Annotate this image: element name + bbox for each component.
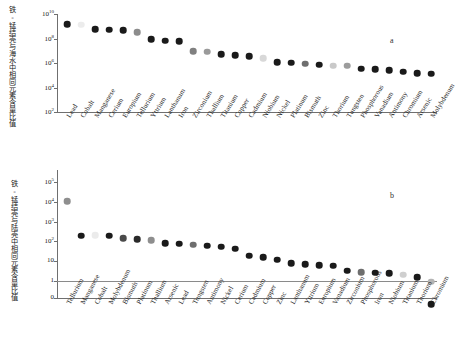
panel-b-point-lanthanum — [288, 260, 295, 267]
panel-b-point-molybdenum — [106, 233, 113, 240]
panel-b: 铁-锰结壳与陆壳中相同元素含量比值 b 0110102103104105 Tel… — [0, 168, 447, 354]
panel-b-ytick-0: 0 — [32, 293, 54, 301]
panel-a-ytick-mark-3 — [54, 39, 57, 40]
panel-b-y-axis — [57, 170, 58, 298]
panel-b-point-tellurium — [64, 198, 71, 205]
panel-a-point-manganese — [92, 26, 99, 33]
panel-b-letter: b — [390, 191, 394, 200]
panel-b-point-bismuth — [120, 235, 127, 242]
panel-a-y-axis — [57, 14, 58, 112]
panel-b-ytick-5: 104 — [32, 197, 54, 206]
panel-a-point-molybdenum — [428, 70, 435, 77]
panel-a-point-iron — [176, 38, 183, 45]
panel-b-xlabel-iron: Iron — [373, 291, 386, 305]
panel-a-point-platinum — [288, 59, 295, 66]
panel-b-ylabel-group: 铁-锰结壳与陆壳中相同元素含量比值 — [10, 180, 19, 301]
panel-b-point-manganese — [78, 232, 85, 239]
panel-a-point-tellurium — [134, 29, 141, 36]
panel-b-point-copper — [260, 254, 267, 261]
panel-b-ytick-mark-3 — [54, 241, 57, 242]
panel-b-ytick-3: 102 — [32, 236, 54, 245]
panel-a-ylabel-group: 铁-锰结壳与海水中相同元素含量比值 — [8, 6, 17, 127]
panel-b-ytick-mark-2 — [54, 261, 57, 262]
panel-a-point-thallium — [204, 49, 211, 56]
panel-b-point-yttrium — [302, 261, 309, 268]
panel-b-point-niobium — [386, 270, 393, 277]
panel-b-point-arsenic — [162, 240, 169, 247]
panel-b-point-cobalt — [92, 232, 99, 239]
panel-b-point-lead — [176, 241, 183, 248]
panel-b-point-zinc — [274, 256, 281, 263]
panel-a-point-antimony — [386, 67, 393, 74]
panel-a-point-lead — [64, 21, 71, 28]
panel-a-point-arsenic — [414, 70, 421, 77]
panel-b-ytick-1: 1 — [32, 276, 54, 284]
panel-b-point-cerium — [232, 246, 239, 253]
panel-b-reference-line-one — [57, 281, 437, 282]
panel-a-ytick-3: 108 — [32, 34, 54, 43]
panel-b-ylabel-chinese: 铁-锰结壳与陆壳中相同元素含量比值 — [10, 180, 19, 301]
panel-b-ytick-mark-6 — [54, 182, 57, 183]
panel-a-xlabel-iron: Iron — [177, 105, 190, 119]
panel-a-point-tungsten — [344, 63, 351, 70]
panel-b-ytick-mark-0 — [54, 298, 57, 299]
panel-a-point-titanium — [218, 51, 225, 58]
panel-a-ytick-2: 106 — [32, 58, 54, 67]
panel-a-ytick-mark-1 — [54, 88, 57, 89]
panel-b-ytick-mark-4 — [54, 222, 57, 223]
panel-a-point-cobalt — [78, 22, 85, 29]
panel-a-ytick-mark-4 — [54, 14, 57, 15]
panel-a-point-cadmium — [246, 53, 253, 60]
panel-b-ytick-4: 103 — [32, 217, 54, 226]
panel-a-point-copper — [232, 52, 239, 59]
panel-b-ytick-2: 10 — [32, 256, 54, 264]
panel-b-ytick-mark-5 — [54, 202, 57, 203]
panel-a-point-zirconium — [190, 48, 197, 55]
panel-a-point-phosphorous — [358, 65, 365, 72]
panel-a-xlabel-cobalt: Cobalt — [79, 99, 96, 120]
panel-a-ytick-4: 1010 — [32, 9, 54, 18]
panel-a-point-zinc — [316, 61, 323, 68]
panel-a-ytick-mark-0 — [54, 112, 57, 113]
panel-a: 铁-锰结壳与海水中相同元素含量比值 a 1021041061081010 Lea… — [0, 0, 447, 168]
panel-a-point-bismuth — [302, 60, 309, 67]
panel-b-point-europium — [316, 262, 323, 269]
panel-a-letter: a — [390, 36, 394, 45]
panel-b-point-thallium — [148, 237, 155, 244]
panel-b-point-antimony — [204, 242, 211, 249]
panel-b-point-vanadium — [330, 262, 337, 269]
panel-a-point-nickel — [274, 59, 281, 66]
panel-a-point-thorium — [330, 62, 337, 69]
panel-a-ytick-0: 102 — [32, 107, 54, 116]
panel-a-point-vanadium — [372, 66, 379, 73]
panel-b-point-zirconium — [344, 267, 351, 274]
panel-b-ytick-6: 105 — [32, 177, 54, 186]
panel-a-point-chromium — [400, 68, 407, 75]
panel-a-point-europium — [120, 27, 127, 34]
panel-a-ylabel-chinese: 铁-锰结壳与海水中相同元素含量比值 — [8, 6, 17, 127]
panel-b-point-cadmium — [246, 252, 253, 259]
panel-a-ytick-mark-2 — [54, 63, 57, 64]
panel-b-point-titanium — [400, 271, 407, 278]
panel-a-point-yttrium — [148, 36, 155, 43]
panel-a-ytick-1: 104 — [32, 83, 54, 92]
panel-a-point-cerium — [106, 26, 113, 33]
panel-a-point-lanthanum — [162, 37, 169, 44]
panel-a-point-niobium — [260, 55, 267, 62]
panel-b-point-platinum — [134, 236, 141, 243]
panel-b-point-nickel — [218, 243, 225, 250]
panel-b-ytick-mark-1 — [54, 281, 57, 282]
panel-b-point-tungsten — [190, 241, 197, 248]
